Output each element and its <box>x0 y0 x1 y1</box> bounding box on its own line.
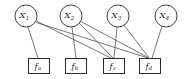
factor-graph-canvas: fafbfcfd X1X2X3X4 <box>0 0 194 79</box>
edge-x4-fd <box>152 26 162 58</box>
factor-nodes-layer: fafbfcfd <box>29 59 161 74</box>
edge-x3-fc <box>114 27 117 58</box>
factor-node-fd[interactable]: fd <box>140 59 161 74</box>
variable-node-x4[interactable]: X4 <box>155 5 177 27</box>
edges-layer <box>28 21 162 58</box>
variable-node-x3[interactable]: X3 <box>107 5 129 27</box>
factor-node-fc[interactable]: fc <box>104 59 125 74</box>
factor-node-fb[interactable]: fb <box>66 59 87 74</box>
variable-node-x1[interactable]: X1 <box>15 5 37 27</box>
edge-x2-fb <box>72 27 76 58</box>
edge-x3-fd <box>124 25 149 58</box>
factor-graph-figure: fafbfcfd X1X2X3X4 <box>0 0 194 79</box>
variable-node-x2[interactable]: X2 <box>60 5 82 27</box>
factor-node-fa[interactable]: fa <box>29 59 50 74</box>
edge-x1-fa <box>28 27 38 58</box>
edge-x2-fc <box>79 23 113 58</box>
